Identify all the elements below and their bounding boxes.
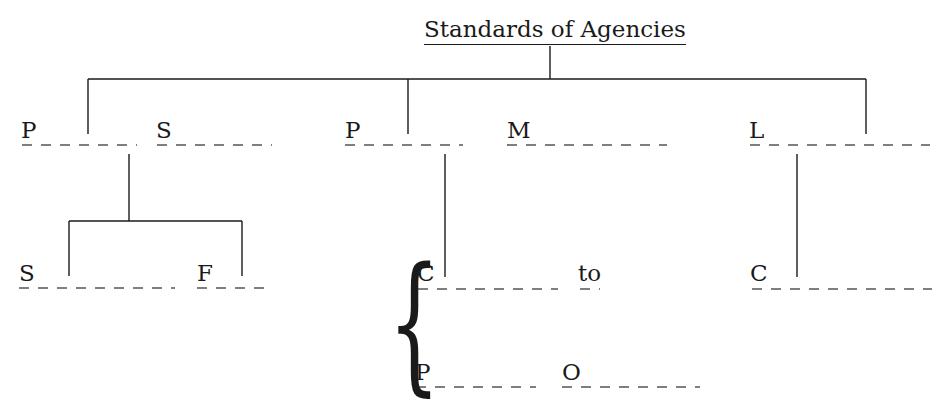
node-c-level2-right: C — [750, 262, 768, 285]
node-s-level1: S — [156, 119, 172, 142]
node-p-level1-middle: P — [345, 119, 360, 142]
node-to-level2: to — [578, 262, 601, 285]
node-s-level2: S — [19, 262, 35, 285]
node-c-level2-middle: C — [417, 262, 435, 285]
node-m-level1: M — [507, 119, 531, 142]
node-f-level2: F — [197, 262, 213, 285]
standards-of-agencies-diagram: Standards of Agencies P S P M L S F { C … — [0, 0, 945, 410]
node-p-level1-left: P — [21, 119, 36, 142]
node-o-level2: O — [562, 361, 581, 384]
connector-lines — [0, 0, 945, 410]
diagram-title: Standards of Agencies — [424, 18, 686, 45]
node-p-level2: P — [415, 361, 430, 384]
node-l-level1: L — [749, 119, 764, 142]
